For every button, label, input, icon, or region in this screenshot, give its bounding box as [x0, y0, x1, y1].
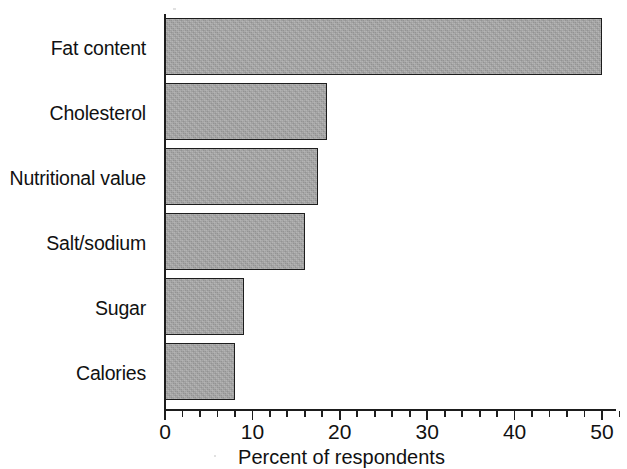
x-tick-minor: [286, 411, 288, 417]
category-label-cholesterol: Cholesterol: [0, 104, 146, 124]
x-tick-minor: [217, 411, 219, 417]
scan-speckle: [173, 8, 176, 10]
x-tick-minor: [304, 411, 306, 417]
x-tick-minor: [199, 411, 201, 417]
bar-calories: [165, 343, 235, 400]
bar-fat-content: [165, 18, 602, 75]
category-label-nutritional-value: Nutritional value: [0, 169, 146, 189]
bar-sugar: [165, 278, 244, 335]
x-tick-minor: [549, 411, 551, 417]
x-tick-minor: [584, 411, 586, 417]
x-tick-minor: [409, 411, 411, 417]
x-tick-minor: [374, 411, 376, 417]
x-tick-minor: [234, 411, 236, 417]
x-tick-major: [426, 411, 428, 420]
x-tick-minor: [182, 411, 184, 417]
x-tick-label-0: 0: [143, 420, 187, 444]
x-tick-minor: [321, 411, 323, 417]
x-tick-minor: [444, 411, 446, 417]
x-tick-label-50: 50: [580, 420, 624, 444]
x-axis-title: Percent of respondents: [0, 446, 627, 469]
bar-nutritional-value: [165, 148, 318, 205]
x-tick-minor: [391, 411, 393, 417]
x-tick-minor: [531, 411, 533, 417]
bar-cholesterol: [165, 83, 327, 140]
x-tick-minor: [496, 411, 498, 417]
bar-salt-sodium: [165, 213, 305, 270]
plot-area: [165, 18, 627, 410]
x-tick-minor: [479, 411, 481, 417]
x-tick-minor: [356, 411, 358, 417]
category-label-sugar: Sugar: [0, 299, 146, 319]
x-tick-label-20: 20: [318, 420, 362, 444]
x-tick-major: [164, 411, 166, 420]
category-axis-labels: Fat content Cholesterol Nutritional valu…: [0, 18, 155, 410]
x-tick-label-10: 10: [230, 420, 274, 444]
x-tick-minor: [619, 411, 621, 417]
x-tick-major: [601, 411, 603, 420]
x-tick-major: [252, 411, 254, 420]
x-tick-minor: [461, 411, 463, 417]
category-label-salt-sodium: Salt/sodium: [0, 234, 146, 254]
x-tick-minor: [566, 411, 568, 417]
x-tick-minor: [269, 411, 271, 417]
x-tick-label-30: 30: [405, 420, 449, 444]
x-tick-label-40: 40: [493, 420, 537, 444]
x-tick-major: [339, 411, 341, 420]
x-tick-major: [514, 411, 516, 420]
category-label-calories: Calories: [0, 364, 146, 384]
y-axis-line: [164, 14, 166, 410]
category-label-fat-content: Fat content: [0, 39, 146, 59]
